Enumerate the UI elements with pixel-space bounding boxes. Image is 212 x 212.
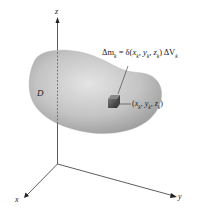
eq-delta: = δ( [117,47,133,57]
eq-x-sub: k [136,53,138,59]
y-axis [58,164,175,196]
pt-x-sub: k [138,104,140,110]
y-axis-arrowhead [170,193,177,198]
mass-equation: Δmk = δ(xk, yk, zk) ΔVk [102,48,178,59]
region-d-label: D [37,89,44,98]
z-axis-label: z [55,8,58,16]
y-axis-label: y [178,193,182,201]
eq-y-sub: k [147,53,149,59]
pt-z-sub: k [158,104,160,110]
x-axis-label: x [15,196,19,204]
eq-volume: ) ΔV [159,47,175,57]
mass-element-cube [108,95,120,108]
eq-lhs: Δm [102,47,114,57]
point-label: (xk, yk, zk) [132,100,163,110]
region-d-blob [29,50,161,133]
diagram-svg [0,0,212,212]
pt-y-sub: k [148,104,150,110]
x-axis [26,164,58,196]
z-axis-arrowhead [56,17,60,23]
diagram-canvas: z x y D Δmk = δ(xk, yk, zk) ΔVk (xk, yk,… [0,0,212,212]
eq-v-sub: k [175,53,177,59]
